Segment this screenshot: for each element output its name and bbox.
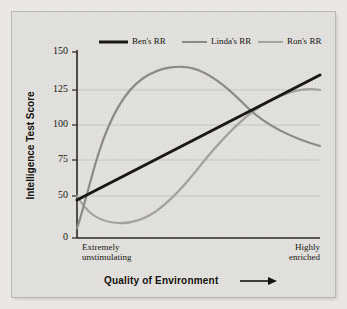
ytick-label-125: 125 — [38, 83, 68, 94]
ytick-label-50: 50 — [38, 189, 68, 200]
figure-container: Ben's RR Linda's RR Ron's RR 150 125 100… — [0, 0, 347, 309]
xaxis-category-left-line1: Extremely — [82, 242, 132, 252]
xaxis-category-right-line1: Highly — [262, 242, 320, 252]
xaxis-category-left-line2: unstimulating — [82, 252, 132, 262]
xaxis-title: Quality of Environment — [104, 275, 218, 286]
x-axis-arrow-head — [268, 277, 277, 285]
series-line-linda — [77, 67, 320, 228]
ytick-label-100: 100 — [38, 118, 68, 129]
xaxis-category-right: Highly enriched — [262, 242, 320, 262]
xaxis-category-right-line2: enriched — [262, 252, 320, 262]
legend-label-ron: Ron's RR — [287, 36, 321, 46]
series-line-ron — [77, 89, 320, 223]
ytick-label-0: 0 — [38, 231, 68, 242]
series-line-ben — [77, 75, 320, 200]
legend-label-linda: Linda's RR — [211, 36, 251, 46]
yaxis-title: Intelligence Test Score — [25, 76, 36, 216]
ytick-label-150: 150 — [38, 45, 68, 56]
legend-label-ben: Ben's RR — [132, 36, 166, 46]
ytick-label-75: 75 — [38, 153, 68, 164]
xaxis-category-left: Extremely unstimulating — [82, 242, 132, 262]
